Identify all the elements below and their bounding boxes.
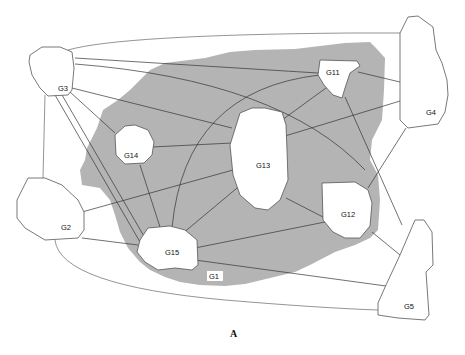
edge-g3-g2 xyxy=(43,95,45,178)
label-g3: G3 xyxy=(58,84,68,93)
edge-g12-g4 xyxy=(368,128,406,188)
label-g4: G4 xyxy=(426,108,436,117)
label-g1: G1 xyxy=(209,272,219,281)
label-g14: G14 xyxy=(124,151,138,160)
label-g13: G13 xyxy=(256,161,270,170)
figure-caption: A xyxy=(230,328,238,339)
region-adjacency-diagram: G3 G2 G4 G5 G11 G12 G13 G14 G15 G1 A xyxy=(0,0,465,355)
region-g2 xyxy=(17,178,84,240)
edge-g12-g5 xyxy=(372,232,400,255)
region-g4 xyxy=(400,16,448,128)
label-g11: G11 xyxy=(326,68,340,77)
label-g5: G5 xyxy=(404,302,414,311)
label-g15: G15 xyxy=(165,248,179,257)
label-g12: G12 xyxy=(341,210,355,219)
label-g2: G2 xyxy=(61,223,71,232)
